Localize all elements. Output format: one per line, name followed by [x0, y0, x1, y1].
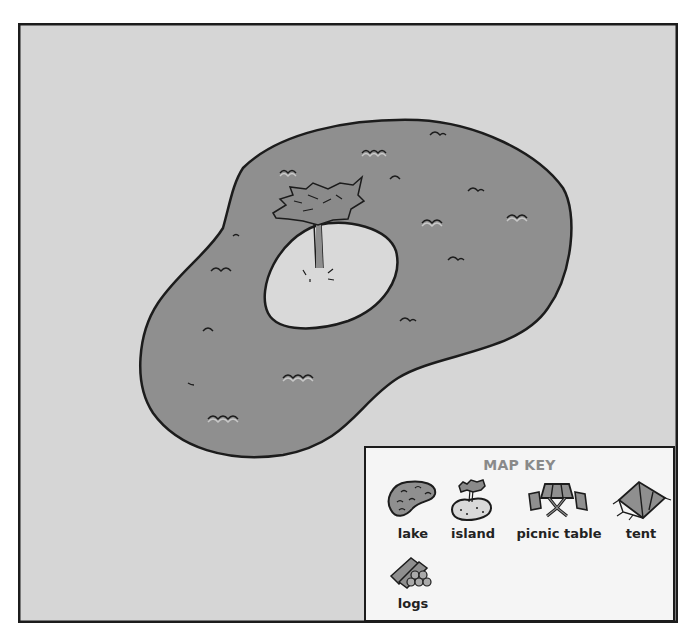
map-key: MAP KEY lake island picnic table	[364, 446, 675, 622]
key-label-tent: tent	[596, 526, 686, 541]
key-label-logs: logs	[368, 596, 458, 611]
picnic-table-icon	[527, 478, 591, 522]
key-item-logs: logs	[368, 552, 458, 611]
island-icon	[445, 478, 501, 522]
key-item-tent: tent	[596, 478, 686, 541]
logs-icon	[385, 552, 441, 592]
tent-icon	[609, 478, 673, 522]
map-key-title: MAP KEY	[366, 457, 673, 473]
